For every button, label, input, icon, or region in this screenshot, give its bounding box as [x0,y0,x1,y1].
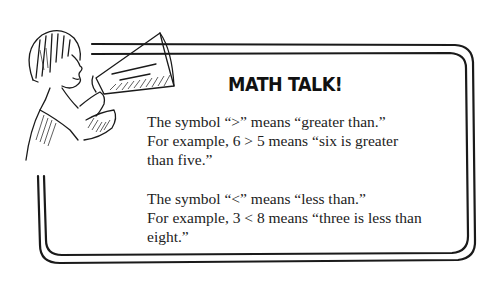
text-line: For example, 6 > 5 means “six is greater [147,131,487,150]
callout-title: MATH TALK! [228,73,366,95]
paragraph-greater-than: The symbol “>” means “greater than.” For… [147,112,487,169]
text-line: than five.” [147,150,487,169]
paragraph-less-than: The symbol “<” means “less than.” For ex… [147,189,487,246]
text-line: eight.” [147,227,487,246]
text-line: The symbol “>” means “greater than.” [147,112,487,131]
text-line: For example, 3 < 8 means “three is less … [147,208,487,227]
text-line: The symbol “<” means “less than.” [147,189,487,208]
